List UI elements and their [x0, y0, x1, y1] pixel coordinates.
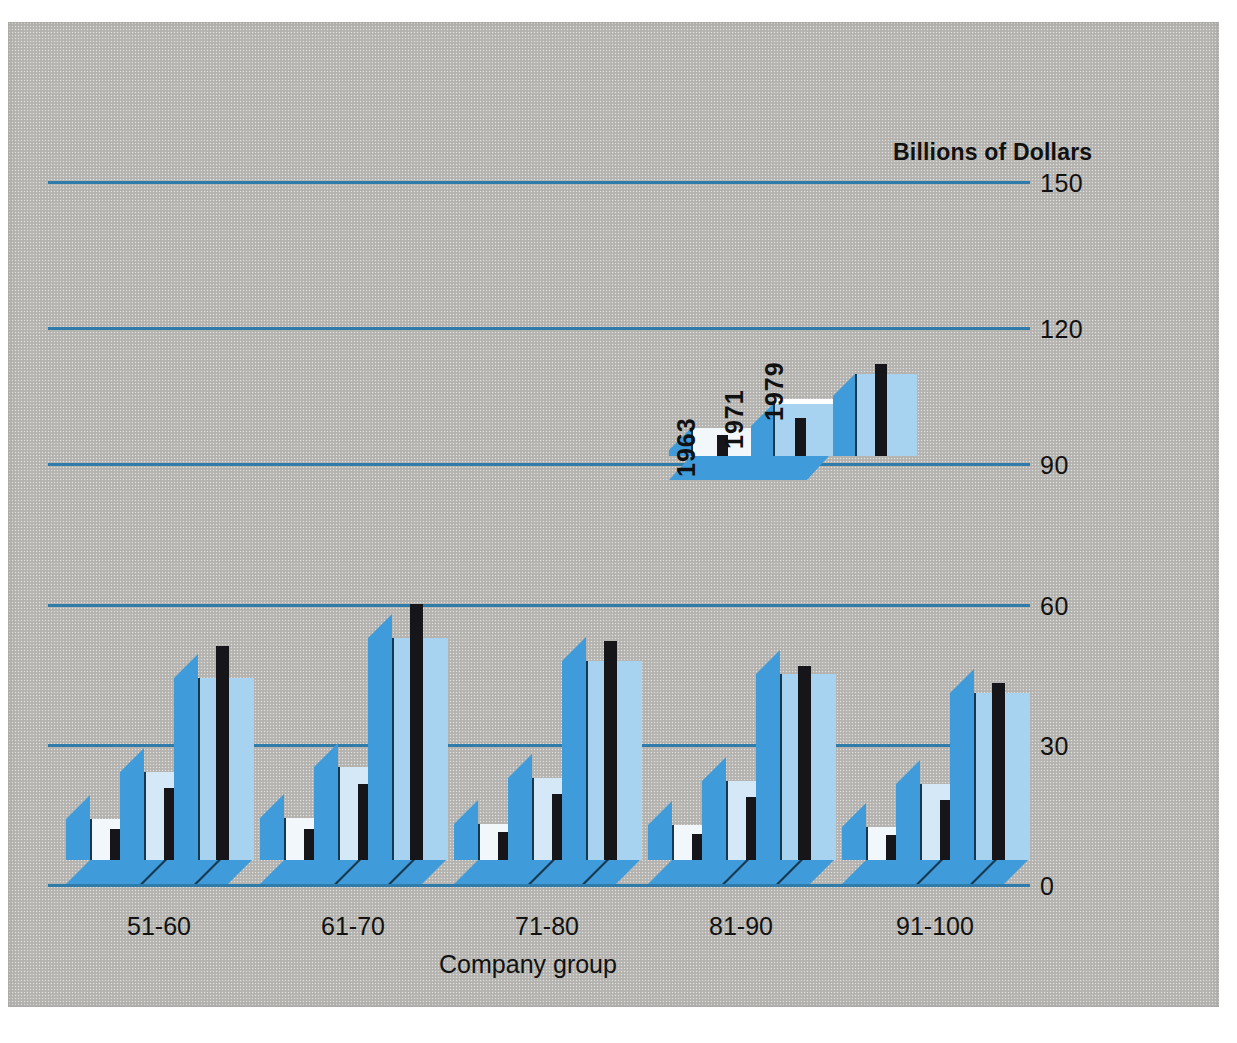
group-label-71-80: 71-80	[454, 912, 640, 941]
bar-side	[648, 801, 672, 860]
group-label-81-90: 81-90	[648, 912, 834, 941]
legend: 1963 1971 1979	[663, 352, 843, 492]
bar-81-90-1979	[780, 582, 834, 884]
bar-marker-rule	[992, 683, 1005, 860]
bar-side	[562, 637, 586, 860]
bar-side	[950, 669, 974, 860]
bar-side	[66, 795, 90, 860]
ytick-label-0: 0	[1040, 872, 1054, 901]
bar-51-60-1979	[198, 582, 252, 884]
legend-bar-1971-marker	[795, 418, 806, 456]
group-label-51-60: 51-60	[66, 912, 252, 941]
legend-bar-1979-side	[833, 374, 855, 456]
gridline-150	[48, 181, 1030, 184]
bar-group-71-80	[454, 582, 654, 894]
legend-year-1963: 1963	[672, 417, 701, 477]
ytick-label-150: 150	[1040, 169, 1083, 198]
group-label-91-100: 91-100	[842, 912, 1028, 941]
legend-year-1979: 1979	[760, 361, 789, 421]
ytick-label-60: 60	[1040, 592, 1069, 621]
gridline-120	[48, 327, 1030, 330]
chart-plate: 150 120 90 60 30 0 Billions of Dollars	[8, 22, 1219, 1007]
bar-group-61-70	[260, 582, 460, 894]
bar-side	[174, 654, 198, 860]
bar-side	[260, 794, 284, 860]
group-label-61-70: 61-70	[260, 912, 446, 941]
ytick-label-90: 90	[1040, 451, 1069, 480]
bar-side	[454, 800, 478, 860]
bar-91-100-1979	[974, 582, 1028, 884]
bar-group-91-100	[842, 582, 1042, 894]
bar-side	[756, 650, 780, 860]
bar-marker-rule	[604, 641, 617, 860]
legend-bar-1979	[855, 352, 915, 480]
chart-page: 150 120 90 60 30 0 Billions of Dollars	[0, 0, 1237, 1043]
legend-year-1971: 1971	[720, 389, 749, 449]
bar-marker-rule	[216, 646, 229, 860]
bar-side	[368, 614, 392, 860]
bar-group-51-60	[66, 582, 266, 894]
bar-marker-rule	[410, 604, 423, 860]
x-axis-title: Company group	[8, 950, 1048, 979]
ytick-label-30: 30	[1040, 732, 1069, 761]
bar-61-70-1979	[392, 582, 446, 884]
bar-group-81-90	[648, 582, 848, 894]
bar-marker-rule	[798, 666, 811, 860]
bar-side	[842, 803, 866, 860]
legend-bar-1979-marker	[875, 364, 887, 456]
ytick-label-120: 120	[1040, 315, 1083, 344]
y-axis-caption: Billions of Dollars	[893, 139, 1092, 166]
bar-71-80-1979	[586, 582, 640, 884]
